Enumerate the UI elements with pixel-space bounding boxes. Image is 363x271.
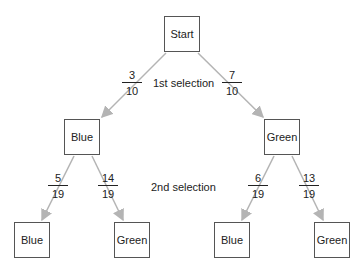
node-blue-green: Green bbox=[114, 222, 150, 258]
level-label-second: 2nd selection bbox=[151, 181, 216, 193]
node-green-green: Green bbox=[314, 222, 350, 258]
denominator: 19 bbox=[98, 188, 118, 200]
node-start: Start bbox=[164, 16, 200, 52]
fraction-bar bbox=[299, 185, 319, 186]
node-green-blue: Blue bbox=[214, 222, 250, 258]
node-blue-blue: Blue bbox=[14, 222, 50, 258]
numerator: 3 bbox=[122, 69, 142, 81]
fraction-bar bbox=[122, 82, 142, 83]
fraction-bar bbox=[98, 185, 118, 186]
prob-start-green: 7 10 bbox=[222, 69, 242, 97]
denominator: 10 bbox=[222, 85, 242, 97]
numerator: 7 bbox=[222, 69, 242, 81]
denominator: 19 bbox=[48, 188, 68, 200]
node-first-blue: Blue bbox=[64, 119, 100, 155]
prob-green-green: 13 19 bbox=[299, 172, 319, 200]
numerator: 6 bbox=[248, 172, 268, 184]
prob-blue-green: 14 19 bbox=[98, 172, 118, 200]
fraction-bar bbox=[222, 82, 242, 83]
numerator: 13 bbox=[299, 172, 319, 184]
denominator: 19 bbox=[299, 188, 319, 200]
denominator: 10 bbox=[122, 85, 142, 97]
level-label-first: 1st selection bbox=[153, 77, 214, 89]
numerator: 5 bbox=[48, 172, 68, 184]
prob-green-blue: 6 19 bbox=[248, 172, 268, 200]
fraction-bar bbox=[248, 185, 268, 186]
numerator: 14 bbox=[98, 172, 118, 184]
node-first-green: Green bbox=[264, 119, 300, 155]
fraction-bar bbox=[48, 185, 68, 186]
prob-start-blue: 3 10 bbox=[122, 69, 142, 97]
denominator: 19 bbox=[248, 188, 268, 200]
prob-blue-blue: 5 19 bbox=[48, 172, 68, 200]
